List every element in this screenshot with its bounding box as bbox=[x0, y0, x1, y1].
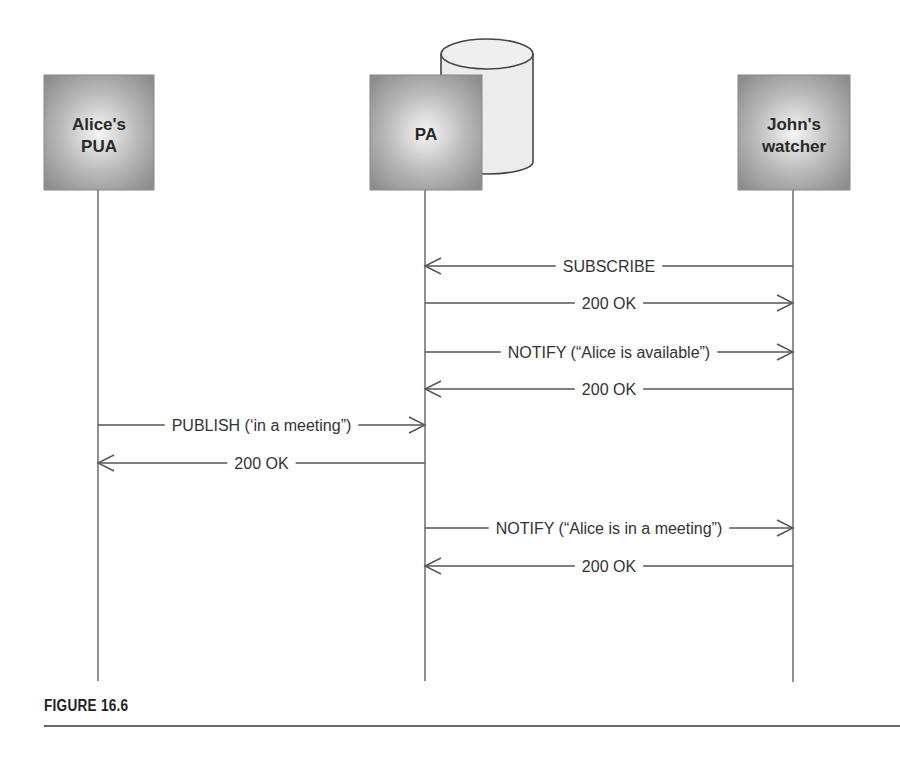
message-arrow: 200 OK bbox=[425, 381, 793, 398]
message-label: 200 OK bbox=[582, 295, 637, 312]
message-label: SUBSCRIBE bbox=[563, 258, 655, 275]
actor-label: PA bbox=[415, 125, 437, 144]
message-label: NOTIFY (“Alice is in a meeting”) bbox=[496, 520, 722, 537]
message-label: 200 OK bbox=[582, 381, 637, 398]
message-label: NOTIFY (“Alice is available”) bbox=[508, 344, 710, 361]
message-label: 200 OK bbox=[234, 455, 289, 472]
message-arrow: 200 OK bbox=[425, 295, 793, 312]
figure-caption: FIGURE 16.6 bbox=[44, 697, 128, 715]
message-arrow: 200 OK bbox=[98, 455, 425, 472]
actor-john: John's watcher bbox=[738, 75, 850, 190]
message-arrow: 200 OK bbox=[425, 558, 793, 575]
message-label: PUBLISH (‘in a meeting”) bbox=[172, 417, 352, 434]
actor-label: PUA bbox=[81, 137, 117, 156]
message-arrow: NOTIFY (“Alice is available”) bbox=[425, 344, 793, 361]
sequence-diagram: Alice's PUA PA John's watcher SUBSCRIBE2… bbox=[0, 0, 900, 760]
actor-alice: Alice's PUA bbox=[44, 75, 154, 190]
message-label: 200 OK bbox=[582, 558, 637, 575]
actor-label: John's bbox=[767, 115, 821, 134]
message-arrow: NOTIFY (“Alice is in a meeting”) bbox=[425, 520, 793, 537]
caption-rule bbox=[44, 725, 900, 727]
messages: SUBSCRIBE200 OKNOTIFY (“Alice is availab… bbox=[98, 258, 793, 575]
actor-label: Alice's bbox=[72, 115, 126, 134]
message-arrow: PUBLISH (‘in a meeting”) bbox=[98, 417, 425, 434]
actor-pa: PA bbox=[370, 75, 482, 190]
message-arrow: SUBSCRIBE bbox=[425, 258, 793, 275]
actor-label: watcher bbox=[761, 137, 827, 156]
